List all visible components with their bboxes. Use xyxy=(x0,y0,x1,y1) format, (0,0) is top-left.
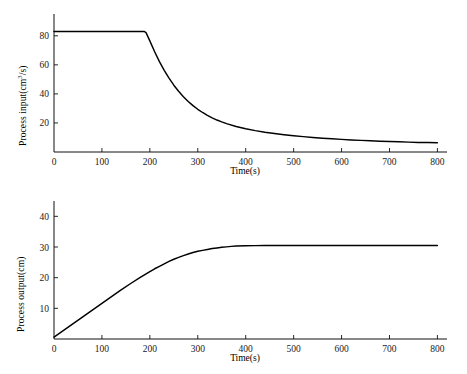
x-tick-label: 800 xyxy=(430,344,445,354)
y-tick-label: 80 xyxy=(40,31,50,41)
data-series-line xyxy=(54,31,437,142)
panel-process-input: Process input(cm3/s) 0100200300400500600… xyxy=(0,0,467,187)
x-tick-label: 600 xyxy=(334,157,349,167)
y-tick-label: 40 xyxy=(40,212,50,222)
plot-area-process-input: 010020030040050060070080020406080 xyxy=(0,0,467,187)
y-tick-label: 10 xyxy=(40,304,50,314)
x-tick-label: 100 xyxy=(95,344,110,354)
y-tick-label: 20 xyxy=(40,273,50,283)
y-tick-label: 20 xyxy=(40,118,50,128)
x-tick-label: 200 xyxy=(143,344,158,354)
x-tick-label: 600 xyxy=(334,344,349,354)
x-tick-label: 0 xyxy=(52,344,57,354)
y-tick-label: 60 xyxy=(40,60,50,70)
data-series-line xyxy=(54,245,437,337)
y-tick-label: 40 xyxy=(40,89,50,99)
x-tick-label: 100 xyxy=(95,157,110,167)
y-tick-label: 30 xyxy=(40,243,50,253)
x-tick-label: 700 xyxy=(382,157,397,167)
x-tick-label: 0 xyxy=(52,157,57,167)
x-tick-label: 800 xyxy=(430,157,445,167)
panel-process-output: Process output(cm) 010020030040050060070… xyxy=(0,187,467,374)
x-axis-label-process-output: Time(s) xyxy=(200,353,290,363)
x-tick-label: 200 xyxy=(143,157,158,167)
x-axis-label-process-input: Time(s) xyxy=(200,166,290,176)
figure-two-panel-process-response: Process input(cm3/s) 0100200300400500600… xyxy=(0,0,467,374)
x-tick-label: 700 xyxy=(382,344,397,354)
plot-area-process-output: 010020030040050060070080010203040 xyxy=(0,187,467,374)
